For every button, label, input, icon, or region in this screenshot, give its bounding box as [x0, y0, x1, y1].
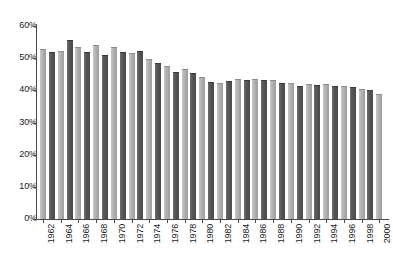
bar: [323, 84, 329, 219]
bar-face: [137, 51, 143, 219]
bar: [261, 80, 267, 219]
bar-face: [111, 47, 117, 219]
bar: [217, 83, 223, 219]
bar-face: [84, 52, 90, 219]
x-axis-tick-mark: [326, 220, 327, 223]
bar: [288, 83, 294, 219]
bar-face: [341, 86, 347, 219]
bar: [58, 51, 64, 219]
x-axis-tick-label: 1980: [206, 224, 215, 243]
bar-face: [120, 52, 126, 219]
x-axis-tick-label: 1994: [330, 224, 339, 243]
bar-face: [244, 80, 250, 219]
x-axis-tick-label: 1970: [118, 224, 127, 243]
bar-face: [323, 84, 329, 219]
bar-face: [40, 49, 46, 219]
bar: [190, 73, 196, 219]
x-axis-tick-label: 1978: [189, 224, 198, 243]
x-axis-tick-mark: [379, 220, 380, 223]
bar-face: [67, 40, 73, 219]
x-axis-tick-label: 1988: [277, 224, 286, 243]
bar-face: [93, 45, 99, 219]
bar-face: [173, 72, 179, 219]
x-axis-tick-mark: [43, 220, 44, 223]
bar: [129, 53, 135, 219]
bar: [164, 66, 170, 219]
x-axis-tick-mark: [114, 220, 115, 223]
bar: [332, 86, 338, 219]
bar-face: [261, 80, 267, 219]
bar: [137, 51, 143, 219]
bar-face: [49, 52, 55, 219]
bar: [146, 59, 152, 219]
x-axis-tick-label: 1974: [153, 224, 162, 243]
bar: [75, 47, 81, 219]
bar-face: [270, 80, 276, 219]
bar: [111, 47, 117, 219]
bar-series: [37, 26, 389, 219]
bar: [252, 79, 258, 219]
bar-chart: 60%50%40%30%20%10%0% 1962196419661968197…: [0, 0, 393, 277]
bar: [93, 45, 99, 219]
x-axis-tick-mark: [61, 220, 62, 223]
bar-face: [102, 55, 108, 219]
bar-face: [199, 77, 205, 219]
bar-face: [75, 47, 81, 219]
x-axis-tick-label: 1976: [171, 224, 180, 243]
x-axis-tick-label: 1962: [47, 224, 56, 243]
bar-face: [252, 79, 258, 219]
bar-face: [376, 94, 382, 219]
bar: [102, 55, 108, 219]
bar: [341, 86, 347, 219]
x-axis-tick-label: 1998: [366, 224, 375, 243]
bar-face: [350, 87, 356, 219]
bar-face: [359, 89, 365, 219]
x-axis-line: [36, 219, 389, 220]
x-axis-tick-label: 1990: [295, 224, 304, 243]
x-axis-tick-label: 1984: [242, 224, 251, 243]
bar-face: [146, 59, 152, 219]
bar: [235, 79, 241, 219]
bar-face: [306, 84, 312, 219]
bar: [314, 85, 320, 219]
bar-face: [208, 82, 214, 219]
plot-area: [37, 26, 389, 219]
x-axis-tick-mark: [273, 220, 274, 223]
x-axis-tick-mark: [344, 220, 345, 223]
x-axis-tick-mark: [185, 220, 186, 223]
bar: [49, 52, 55, 219]
bar: [84, 52, 90, 219]
y-axis-tick-label: 60%: [3, 21, 37, 30]
bar: [359, 89, 365, 219]
bar-face: [182, 69, 188, 219]
x-axis-tick-mark: [309, 220, 310, 223]
bar-face: [58, 51, 64, 219]
bar: [350, 87, 356, 219]
x-axis-labels: 1962196419661968197019721974197619781980…: [0, 221, 393, 277]
x-axis-tick-mark: [149, 220, 150, 223]
x-axis-tick-mark: [238, 220, 239, 223]
bar: [244, 80, 250, 219]
bar: [270, 80, 276, 219]
bar: [40, 49, 46, 219]
bar-face: [367, 90, 373, 219]
x-axis-tick-mark: [291, 220, 292, 223]
bar: [306, 84, 312, 219]
y-axis-tick-label: 40%: [3, 85, 37, 94]
bar-face: [332, 86, 338, 219]
bar: [297, 86, 303, 219]
x-axis-tick-label: 1986: [259, 224, 268, 243]
bar: [279, 83, 285, 219]
x-axis-tick-mark: [255, 220, 256, 223]
bar: [226, 81, 232, 219]
y-axis-tick-label: 30%: [3, 118, 37, 127]
x-axis-tick-label: 1968: [100, 224, 109, 243]
bar-face: [279, 83, 285, 219]
bar: [376, 94, 382, 219]
x-axis-tick-mark: [96, 220, 97, 223]
x-axis-tick-label: 2000: [383, 224, 392, 243]
y-axis-tick-label: 10%: [3, 182, 37, 191]
bar-face: [235, 79, 241, 219]
x-axis-tick-label: 1966: [82, 224, 91, 243]
x-axis-tick-label: 1996: [348, 224, 357, 243]
